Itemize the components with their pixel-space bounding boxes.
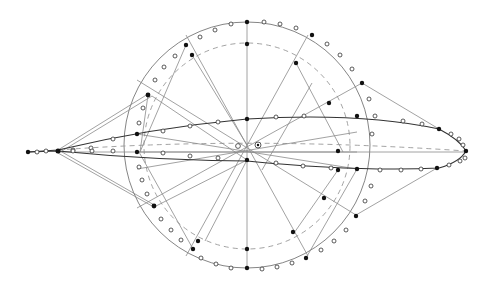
open-points <box>35 20 467 271</box>
geometric-diagram <box>0 0 494 290</box>
